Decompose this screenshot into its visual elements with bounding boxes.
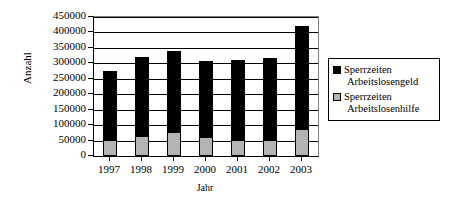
bar-stack — [231, 60, 245, 156]
bar-segment-arbeitslosengeld — [103, 71, 117, 140]
y-axis-tick-mark — [88, 47, 93, 48]
bar-stack — [263, 58, 277, 156]
y-axis-tick-mark — [88, 62, 93, 63]
bar-segment-arbeitslosengeld — [167, 51, 181, 132]
y-axis-tick-label: 300000 — [28, 56, 86, 67]
y-axis-tick-label: 50000 — [28, 134, 86, 145]
bar-segment-arbeitslosenhilfe — [231, 140, 245, 156]
y-axis-tick-mark — [88, 93, 93, 94]
legend-entry: SperrzeitenArbeitslosengeld — [333, 64, 435, 88]
y-axis-tick-mark — [88, 140, 93, 141]
bar-segment-arbeitslosenhilfe — [103, 140, 117, 156]
legend-label: SperrzeitenArbeitslosenhilfe — [344, 91, 419, 115]
legend-entry: SperrzeitenArbeitslosenhilfe — [333, 91, 435, 115]
bar-segment-arbeitslosengeld — [199, 61, 213, 137]
y-axis-tick-label: 150000 — [28, 103, 86, 114]
legend-label-line1: Sperrzeiten — [344, 91, 392, 102]
bar-segment-arbeitslosenhilfe — [295, 129, 309, 156]
bar-segment-arbeitslosengeld — [263, 58, 277, 140]
x-axis-tick-mark — [173, 156, 174, 161]
y-axis-tick-mark — [88, 31, 93, 32]
bar-segment-arbeitslosenhilfe — [199, 137, 213, 156]
legend-swatch-gray — [333, 93, 341, 101]
x-axis-tick-mark — [141, 156, 142, 161]
bar-segment-arbeitslosenhilfe — [263, 140, 277, 156]
legend-label-line2: Arbeitslosengeld — [344, 76, 418, 88]
bars-layer — [94, 17, 318, 156]
plot-area — [93, 16, 319, 157]
y-axis-tick-label: 400000 — [28, 25, 86, 36]
x-axis-tick-label: 2003 — [281, 163, 321, 175]
bar-stack — [167, 51, 181, 156]
y-axis-tick-label: 450000 — [28, 10, 86, 21]
y-axis-tick-label: 100000 — [28, 118, 86, 129]
y-axis-tick-label: 0 — [28, 149, 86, 160]
bar-segment-arbeitslosenhilfe — [135, 136, 149, 156]
bar-chart: Anzahl 450000400000350000300000250000200… — [0, 0, 451, 202]
bar-segment-arbeitslosengeld — [231, 60, 245, 139]
legend-label-line1: Sperrzeiten — [344, 64, 392, 75]
y-axis-tick-label: 200000 — [28, 87, 86, 98]
bar-stack — [135, 57, 149, 156]
y-axis-tick-label: 350000 — [28, 41, 86, 52]
chart-legend: SperrzeitenArbeitslosengeldSperrzeitenAr… — [328, 58, 440, 121]
x-axis-tick-mark — [269, 156, 270, 161]
x-axis-tick-mark — [301, 156, 302, 161]
y-axis-tick-mark — [88, 78, 93, 79]
y-axis-tick-label: 250000 — [28, 72, 86, 83]
legend-label-line2: Arbeitslosenhilfe — [344, 103, 419, 115]
x-axis-tick-mark — [205, 156, 206, 161]
y-axis-tick-mark — [88, 155, 93, 156]
y-axis-tick-mark — [88, 109, 93, 110]
bar-stack — [295, 26, 309, 156]
bar-segment-arbeitslosenhilfe — [167, 132, 181, 156]
bar-stack — [199, 61, 213, 156]
y-axis-tick-labels: 4500004000003500003000002500002000001500… — [28, 16, 86, 155]
bar-segment-arbeitslosengeld — [135, 57, 149, 135]
x-axis-tick-mark — [109, 156, 110, 161]
x-axis-title: Jahr — [93, 182, 317, 193]
y-axis-tick-mark — [88, 124, 93, 125]
bar-stack — [103, 71, 117, 156]
y-axis-tick-mark — [88, 16, 93, 17]
x-axis-tick-mark — [237, 156, 238, 161]
legend-swatch-black — [333, 66, 341, 74]
bar-segment-arbeitslosengeld — [295, 26, 309, 129]
legend-label: SperrzeitenArbeitslosengeld — [344, 64, 418, 88]
